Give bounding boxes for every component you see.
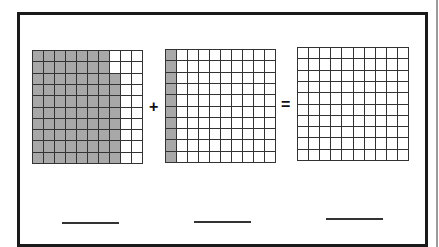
empty-cell [342, 105, 353, 116]
empty-cell [232, 95, 243, 106]
empty-cell [320, 127, 331, 138]
shaded-cell [44, 141, 55, 152]
shaded-cell [88, 51, 99, 62]
empty-cell [188, 50, 199, 61]
empty-cell [354, 138, 365, 149]
shaded-cell [44, 119, 55, 130]
empty-cell [387, 93, 398, 104]
empty-cell [342, 82, 353, 93]
shaded-cell [77, 51, 88, 62]
shaded-cell [166, 152, 177, 163]
empty-cell [177, 107, 188, 118]
empty-cell [254, 84, 265, 95]
empty-cell [387, 127, 398, 138]
shaded-cell [55, 51, 66, 62]
shaded-cell [99, 51, 110, 62]
shaded-cell [66, 51, 77, 62]
empty-cell [199, 140, 210, 151]
empty-cell [298, 71, 309, 82]
empty-cell [331, 105, 342, 116]
empty-cell [221, 84, 232, 95]
empty-cell [188, 73, 199, 84]
shaded-cell [88, 130, 99, 141]
empty-cell [309, 116, 320, 127]
shaded-cell [66, 74, 77, 85]
empty-cell [320, 48, 331, 59]
empty-cell [376, 127, 387, 138]
empty-cell [398, 150, 409, 161]
shaded-cell [166, 95, 177, 106]
empty-cell [376, 105, 387, 116]
empty-cell [243, 61, 254, 72]
shaded-cell [33, 141, 44, 152]
empty-cell [243, 107, 254, 118]
empty-cell [354, 93, 365, 104]
empty-cell [354, 127, 365, 138]
empty-cell [354, 105, 365, 116]
empty-cell [188, 61, 199, 72]
empty-cell [376, 150, 387, 161]
empty-cell [331, 48, 342, 59]
empty-cell [387, 71, 398, 82]
empty-cell [331, 150, 342, 161]
empty-cell [210, 73, 221, 84]
answer-blank-3[interactable] [326, 218, 383, 220]
empty-cell [232, 152, 243, 163]
empty-cell [365, 116, 376, 127]
shaded-cell [55, 108, 66, 119]
empty-cell [199, 107, 210, 118]
empty-cell [132, 130, 143, 141]
shaded-cell [166, 50, 177, 61]
empty-cell [199, 95, 210, 106]
empty-cell [254, 118, 265, 129]
shaded-cell [99, 153, 110, 164]
empty-cell [221, 73, 232, 84]
empty-cell [342, 127, 353, 138]
shaded-cell [77, 85, 88, 96]
shaded-cell [55, 74, 66, 85]
empty-cell [265, 140, 276, 151]
shaded-cell [33, 108, 44, 119]
empty-cell [298, 105, 309, 116]
empty-cell [331, 82, 342, 93]
empty-cell [199, 73, 210, 84]
empty-cell [354, 59, 365, 70]
empty-cell [398, 138, 409, 149]
empty-cell [132, 96, 143, 107]
empty-cell [354, 150, 365, 161]
empty-cell [254, 61, 265, 72]
empty-cell [121, 51, 132, 62]
empty-cell [320, 150, 331, 161]
empty-cell [177, 61, 188, 72]
shaded-cell [77, 74, 88, 85]
shaded-cell [110, 119, 121, 130]
empty-cell [376, 48, 387, 59]
empty-cell [210, 118, 221, 129]
empty-cell [354, 48, 365, 59]
empty-cell [309, 82, 320, 93]
page-edge-line [436, 0, 438, 247]
empty-cell [342, 93, 353, 104]
answer-blank-2[interactable] [194, 221, 251, 223]
empty-cell [210, 50, 221, 61]
empty-cell [387, 59, 398, 70]
empty-cell [365, 105, 376, 116]
shaded-cell [110, 85, 121, 96]
answer-blank-1[interactable] [62, 222, 119, 224]
empty-cell [132, 119, 143, 130]
empty-cell [376, 71, 387, 82]
empty-cell [331, 116, 342, 127]
shaded-cell [110, 108, 121, 119]
empty-cell [320, 71, 331, 82]
empty-cell [309, 48, 320, 59]
empty-cell [199, 152, 210, 163]
empty-cell [210, 95, 221, 106]
empty-cell [121, 74, 132, 85]
shaded-cell [77, 96, 88, 107]
empty-cell [132, 74, 143, 85]
empty-cell [199, 118, 210, 129]
shaded-cell [110, 130, 121, 141]
empty-cell [309, 71, 320, 82]
empty-cell [132, 51, 143, 62]
empty-cell [199, 61, 210, 72]
